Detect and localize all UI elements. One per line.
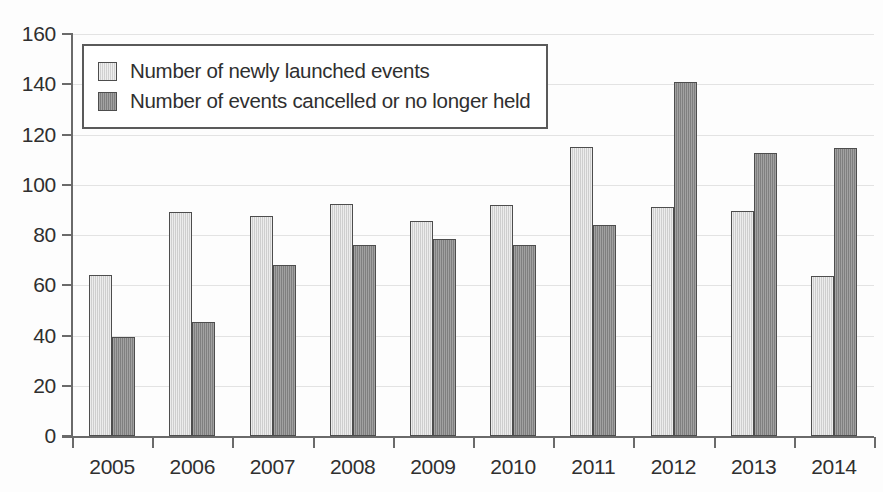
y-axis-tick	[62, 33, 72, 35]
y-axis-tick	[62, 234, 72, 236]
y-axis-tick-label: 0	[4, 425, 56, 446]
x-axis-label: 2010	[474, 455, 552, 479]
bar	[674, 82, 697, 436]
legend-item-cancelled: Number of events cancelled or no longer …	[98, 86, 530, 116]
y-axis-tick	[62, 335, 72, 337]
bar	[651, 207, 674, 436]
x-axis-label: 2005	[73, 455, 151, 479]
bar	[513, 245, 536, 436]
x-axis-tick	[313, 437, 315, 448]
gridline	[72, 135, 874, 136]
bar	[192, 322, 215, 436]
y-axis-tick	[62, 184, 72, 186]
y-axis-tick-label: 120	[4, 124, 56, 145]
y-axis-tick-label: 20	[4, 375, 56, 396]
legend-label-series-0: Number of newly launched events	[130, 60, 430, 82]
x-axis-label: 2014	[795, 455, 873, 479]
bar	[112, 337, 135, 436]
y-axis-tick-label: 80	[4, 224, 56, 245]
y-axis-tick-label: 160	[4, 23, 56, 44]
x-axis-tick	[232, 437, 234, 448]
bar	[169, 212, 192, 436]
bar	[433, 239, 456, 436]
y-axis-tick-label: 40	[4, 325, 56, 346]
bar	[410, 221, 433, 436]
y-axis-tick	[62, 385, 72, 387]
bar	[731, 211, 754, 436]
legend: Number of newly launched events Number o…	[82, 44, 548, 129]
x-axis-label: 2007	[234, 455, 312, 479]
bar	[570, 147, 593, 436]
x-axis-label: 2012	[635, 455, 713, 479]
x-axis-tick	[393, 437, 395, 448]
y-axis-tick-label: 140	[4, 73, 56, 94]
legend-swatch-icon-series-0	[98, 62, 117, 81]
bar	[273, 265, 296, 436]
bar	[490, 205, 513, 436]
y-axis-tick	[62, 83, 72, 85]
gridline	[72, 34, 874, 35]
bar	[593, 225, 616, 436]
y-axis-tick	[62, 134, 72, 136]
bar	[330, 204, 353, 436]
x-axis-tick	[874, 437, 876, 448]
x-axis-label: 2006	[153, 455, 231, 479]
x-axis-label: 2009	[394, 455, 472, 479]
x-axis-tick	[152, 437, 154, 448]
bar	[834, 148, 857, 436]
x-axis-tick	[714, 437, 716, 448]
x-axis-tick	[794, 437, 796, 448]
y-axis-tick-label: 60	[4, 274, 56, 295]
x-axis-label: 2008	[314, 455, 392, 479]
x-axis-line	[62, 436, 874, 438]
x-axis-tick	[473, 437, 475, 448]
x-axis-tick	[72, 437, 74, 448]
x-axis-tick	[553, 437, 555, 448]
legend-label-series-1: Number of events cancelled or no longer …	[130, 90, 530, 112]
bar	[754, 153, 777, 436]
x-axis-label: 2011	[554, 455, 632, 479]
x-axis-label: 2013	[715, 455, 793, 479]
bar-chart: 020406080100120140160 200520062007200820…	[0, 0, 883, 492]
bar	[89, 275, 112, 436]
y-axis-tick	[62, 284, 72, 286]
bar	[250, 216, 273, 436]
y-axis-tick-label: 100	[4, 174, 56, 195]
legend-item-newly-launched: Number of newly launched events	[98, 56, 530, 86]
bar	[353, 245, 376, 436]
bar	[811, 276, 834, 436]
x-axis-tick	[633, 437, 635, 448]
y-axis-tick	[62, 435, 72, 437]
legend-swatch-icon-series-1	[98, 92, 117, 111]
